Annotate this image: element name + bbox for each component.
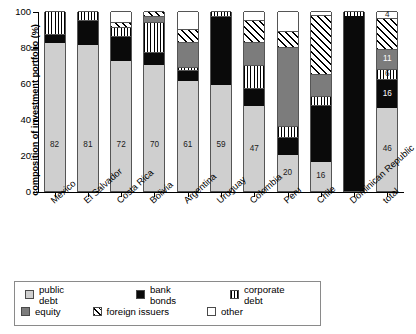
bar-mexico[interactable]: 82 xyxy=(44,12,66,192)
segment-divider xyxy=(178,11,198,12)
bar-uruguay[interactable]: 59 xyxy=(210,12,232,192)
bar-value-label: 59 xyxy=(211,141,231,149)
bar-segment-equity: 11 xyxy=(377,49,397,69)
segment-divider xyxy=(111,27,131,28)
y-tick-label: 100 xyxy=(15,7,31,17)
y-tick-mark xyxy=(33,156,38,157)
legend-item-corporate-debt[interactable]: corporate debt xyxy=(230,284,304,306)
bar-segment-corporate: 6 xyxy=(377,69,397,80)
bar-segment-other xyxy=(111,11,131,22)
bar-segment-corporate xyxy=(311,96,331,105)
bar-segment-bank: 16 xyxy=(377,79,397,108)
segment-divider xyxy=(178,70,198,71)
legend-item-bank-bonds[interactable]: bank bonds xyxy=(136,284,198,306)
bar-segment-public: 61 xyxy=(178,81,198,191)
bar-value-label: 47 xyxy=(244,145,264,153)
segment-divider xyxy=(278,11,298,12)
bar-segment-other xyxy=(178,11,198,29)
bar-segment-equity xyxy=(178,42,198,67)
y-tick-label: 60 xyxy=(20,79,31,89)
bar-peru[interactable]: 20 xyxy=(277,12,299,192)
bar-segment-corporate xyxy=(45,11,65,34)
segment-divider xyxy=(244,20,264,21)
legend-item-equity[interactable]: equity xyxy=(21,306,61,317)
bar-segment-foreign xyxy=(111,22,131,27)
bar-chile[interactable]: 16 xyxy=(310,12,332,192)
bar-value-label: 46 xyxy=(377,145,397,153)
legend-label-other: other xyxy=(221,306,243,317)
legend-label-bank-bonds: bank bonds xyxy=(150,284,198,306)
segment-divider xyxy=(311,74,331,75)
bar-segment-equity xyxy=(244,42,264,65)
legend-item-other[interactable]: other xyxy=(207,306,243,317)
segment-divider xyxy=(311,105,331,106)
bar-colombia[interactable]: 47 xyxy=(243,12,265,192)
segment-divider xyxy=(211,11,231,12)
bar-segment-bank xyxy=(111,36,131,61)
bar-segment-equity xyxy=(311,74,331,96)
segment-divider xyxy=(111,36,131,37)
bar-segment-foreign xyxy=(278,31,298,47)
bar-value-label: 16 xyxy=(311,172,331,180)
legend-label-equity: equity xyxy=(35,306,61,317)
bar-segment-foreign xyxy=(144,11,164,16)
legend: public debt bank bonds corporate debt eq… xyxy=(14,281,321,326)
bar-segment-bank xyxy=(45,34,65,43)
legend-swatch-public-debt-icon xyxy=(25,290,34,299)
legend-swatch-foreign-issuers-icon xyxy=(93,307,102,316)
bar-segment-other xyxy=(278,11,298,31)
bar-el-salvador[interactable]: 81 xyxy=(77,12,99,192)
segment-divider xyxy=(144,16,164,17)
segment-divider xyxy=(278,47,298,48)
segment-divider xyxy=(144,52,164,53)
legend-row-1: public debt bank bonds corporate debt xyxy=(21,286,314,303)
segment-divider xyxy=(178,67,198,68)
bar-segment-public: 81 xyxy=(78,45,98,191)
plot-area: 020406080100 82817270615947201646166114 xyxy=(38,12,404,192)
bar-value-label: 70 xyxy=(144,141,164,149)
bar-segment-corporate xyxy=(244,65,264,88)
y-tick-mark xyxy=(33,84,38,85)
bar-segment-other: 4 xyxy=(377,11,397,18)
bar-dominican-republic[interactable] xyxy=(343,12,365,192)
bar-value-label: 16 xyxy=(377,90,397,98)
legend-item-foreign-issuers[interactable]: foreign issuers xyxy=(93,306,169,317)
legend-label-corporate-debt: corporate debt xyxy=(244,284,304,306)
x-axis-labels: MexicoEl SalvadorCosta RicaBoliviaArgent… xyxy=(38,196,404,276)
bar-segment-equity xyxy=(144,16,164,21)
segment-divider xyxy=(377,18,397,19)
y-tick-label: 20 xyxy=(20,151,31,161)
bar-segment-bank xyxy=(278,137,298,155)
segment-divider xyxy=(311,96,331,97)
bar-costa-rica[interactable]: 72 xyxy=(110,12,132,192)
bar-bolivia[interactable]: 70 xyxy=(143,12,165,192)
bar-segment-public: 82 xyxy=(45,43,65,191)
bar-segment-foreign xyxy=(377,18,397,49)
bar-segment-public: 47 xyxy=(244,106,264,191)
bar-segment-bank xyxy=(344,16,364,191)
y-tick-mark xyxy=(33,48,38,49)
legend-item-public-debt[interactable]: public debt xyxy=(25,284,84,306)
segment-divider xyxy=(244,42,264,43)
segment-divider xyxy=(211,16,231,17)
y-tick-mark xyxy=(33,120,38,121)
bar-segment-corporate xyxy=(178,67,198,71)
segment-divider xyxy=(78,11,98,12)
legend-label-public-debt: public debt xyxy=(39,284,84,306)
bar-value-label: 82 xyxy=(45,141,65,149)
segment-divider xyxy=(377,49,397,50)
segment-divider xyxy=(244,65,264,66)
segment-divider xyxy=(278,126,298,127)
bar-segment-other xyxy=(311,11,331,15)
y-tick-mark xyxy=(33,192,38,193)
legend-label-foreign-issuers: foreign issuers xyxy=(107,306,169,317)
bar-segment-bank xyxy=(211,16,231,84)
bar-segment-other xyxy=(244,11,264,20)
bar-segment-bank xyxy=(178,70,198,81)
bar-segment-corporate xyxy=(144,22,164,53)
legend-swatch-equity-icon xyxy=(21,307,30,316)
y-tick-label: 80 xyxy=(20,43,31,53)
bar-argentina[interactable]: 61 xyxy=(177,12,199,192)
segment-divider xyxy=(178,42,198,43)
